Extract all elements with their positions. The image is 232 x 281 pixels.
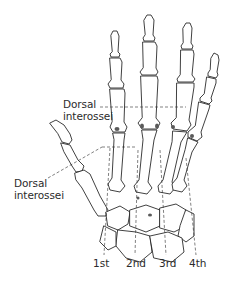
label-2nd: 2nd [126, 257, 146, 269]
metacarpal-bones [108, 130, 198, 194]
label-3rd: 3rd [159, 257, 176, 269]
ring-finger-bones [171, 23, 195, 131]
label-1st: 1st [93, 257, 109, 269]
label-line: Dorsal [63, 98, 113, 110]
carpal-bones [100, 204, 194, 262]
label-dorsal-interossei-upper: Dorsal interossei [63, 98, 113, 122]
middle-finger-bones [138, 15, 160, 129]
label-line: interossei [63, 110, 113, 122]
label-line: interossei [14, 189, 64, 201]
hand-skeleton-illustration [0, 0, 232, 281]
label-line: Dorsal [14, 177, 64, 189]
label-dorsal-interossei-lower: Dorsal interossei [14, 177, 64, 201]
thumb-bones [50, 120, 108, 216]
label-4th: 4th [189, 257, 206, 269]
